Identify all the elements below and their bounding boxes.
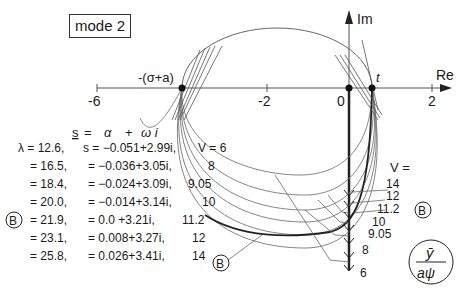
svg-text:+: + [125, 125, 133, 140]
svg-text:12: 12 [386, 189, 400, 203]
v-header: V = [390, 160, 410, 175]
svg-text:= 0.0 +3.21i,: = 0.0 +3.21i, [88, 213, 155, 227]
svg-text:= 16.5,: = 16.5, [30, 159, 67, 173]
svg-text:= −0.014+3.14i,: = −0.014+3.14i, [88, 195, 172, 209]
svg-text:12: 12 [192, 231, 206, 245]
svg-text:aψ: aψ [417, 265, 435, 281]
im-label: Im [357, 11, 373, 27]
svg-text:= 23.1,: = 23.1, [30, 231, 67, 245]
svg-text:= 21.9,: = 21.9, [30, 213, 67, 227]
tick-neg6: -6 [88, 93, 101, 109]
svg-text:= 25.8,: = 25.8, [30, 249, 67, 263]
origin-point [346, 85, 353, 92]
sigma-a-label: -(σ+a) [138, 70, 174, 85]
tick-neg2: -2 [258, 93, 271, 109]
svg-text:B: B [418, 204, 426, 218]
svg-text:8: 8 [208, 159, 215, 173]
svg-text:10: 10 [202, 195, 216, 209]
svg-text:ȳ: ȳ [425, 244, 435, 261]
svg-text:=: = [84, 125, 92, 140]
tick-2: 2 [428, 93, 436, 109]
root-locus-diagram: Im Re -6 -2 0 2 -(σ+a) t s = α + ω i λ =… [0, 0, 465, 288]
im-arrow-icon [345, 10, 353, 24]
svg-text:= −0.036+3.05i,: = −0.036+3.05i, [88, 159, 172, 173]
formula-omega: ω i [141, 125, 159, 140]
re-arrow-icon [440, 84, 452, 92]
svg-text:9.05: 9.05 [368, 227, 392, 241]
re-label: Re [436, 67, 454, 83]
neutral-stability-arc [205, 88, 372, 235]
svg-text:= 0.026+3.41i,: = 0.026+3.41i, [88, 249, 165, 263]
svg-text:V = 6: V = 6 [198, 141, 227, 155]
svg-text:6: 6 [360, 266, 367, 280]
tick-0: 0 [337, 93, 345, 109]
svg-text:= 20.0,: = 20.0, [30, 195, 67, 209]
svg-text:s = −0.051+2.99i,: s = −0.051+2.99i, [83, 141, 176, 155]
svg-text:11.2: 11.2 [377, 202, 400, 216]
svg-text:9.05: 9.05 [188, 177, 212, 191]
svg-text:B: B [216, 257, 224, 271]
formula-alpha: α [104, 125, 112, 140]
point-t [369, 85, 376, 92]
point-sigma-a [179, 85, 186, 92]
formula-s: s [72, 125, 79, 140]
svg-text:11.2: 11.2 [182, 213, 205, 227]
svg-text:= 0.008+3.27i,: = 0.008+3.27i, [88, 231, 165, 245]
t-label: t [376, 70, 381, 85]
svg-text:λ = 12.6,: λ = 12.6, [18, 141, 64, 155]
svg-text:B: B [9, 214, 17, 228]
svg-text:14: 14 [192, 249, 206, 263]
svg-text:= 18.4,: = 18.4, [30, 177, 67, 191]
svg-text:= −0.024+3.09i,: = −0.024+3.09i, [88, 177, 172, 191]
svg-text:8: 8 [362, 243, 369, 257]
